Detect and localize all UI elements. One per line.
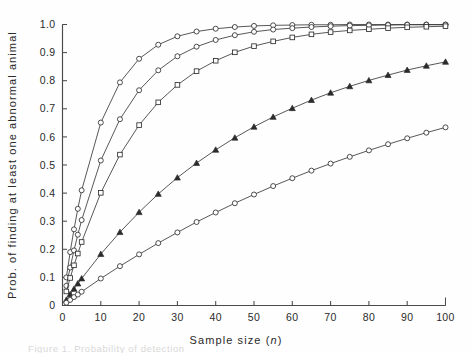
data-point-marker	[117, 117, 122, 122]
data-point-marker	[251, 124, 257, 129]
data-point-marker	[232, 135, 238, 140]
data-point-marker	[213, 26, 218, 31]
data-point-marker	[309, 32, 314, 37]
data-point-marker	[64, 289, 69, 294]
x-tick-label: 70	[324, 311, 336, 323]
data-point-marker	[213, 147, 219, 152]
series-line	[66, 25, 445, 278]
data-point-marker	[194, 44, 199, 49]
data-point-marker	[405, 25, 410, 30]
data-point-marker	[174, 175, 180, 180]
data-point-marker	[137, 123, 142, 128]
data-point-marker	[347, 154, 352, 159]
data-point-marker	[194, 220, 199, 225]
y-tick-label: 0.4	[40, 187, 56, 199]
data-point-marker	[194, 29, 199, 34]
data-point-marker	[213, 37, 218, 42]
data-point-marker	[289, 105, 295, 110]
data-point-marker	[328, 161, 333, 166]
data-point-marker	[137, 252, 142, 257]
series-line	[66, 26, 445, 291]
data-point-marker	[79, 218, 84, 223]
y-tick-label: 0.3	[40, 215, 56, 227]
data-point-marker	[290, 176, 295, 181]
series-line	[66, 127, 445, 302]
data-point-marker	[443, 59, 449, 64]
data-point-marker	[386, 26, 391, 31]
x-tick-label: 80	[363, 311, 375, 323]
data-point-marker	[156, 241, 161, 246]
y-tick-label: 1.0	[40, 18, 56, 30]
data-point-marker	[75, 206, 80, 211]
data-point-marker	[175, 83, 180, 88]
data-point-marker	[232, 25, 237, 30]
y-tick-label: 0.2	[40, 243, 56, 255]
x-tick-label: 50	[248, 311, 260, 323]
data-point-marker	[71, 286, 77, 291]
y-tick-label: 0.8	[40, 74, 56, 86]
y-tick-label: 0	[49, 299, 55, 311]
data-point-marker	[290, 26, 295, 31]
data-point-marker	[347, 23, 352, 28]
x-tick-label: 60	[286, 311, 298, 323]
data-point-marker	[233, 50, 238, 55]
data-point-marker	[443, 24, 448, 29]
data-point-marker	[367, 27, 372, 32]
data-point-marker	[386, 142, 391, 147]
data-point-marker	[309, 168, 314, 173]
x-tick-label: 10	[95, 311, 107, 323]
data-point-marker	[271, 39, 276, 44]
figure-container: 00.10.20.30.40.50.60.70.80.91.0010203040…	[0, 0, 471, 353]
data-point-marker	[99, 191, 104, 196]
chart-plot-area: 00.10.20.30.40.50.60.70.80.91.0010203040…	[0, 0, 471, 353]
data-point-marker	[98, 120, 103, 125]
data-point-marker	[79, 240, 84, 245]
data-point-marker	[194, 69, 199, 74]
data-point-marker	[252, 192, 257, 197]
series-line	[66, 25, 445, 286]
data-point-marker	[328, 24, 333, 29]
y-tick-label: 0.1	[40, 271, 56, 283]
x-tick-label: 100	[436, 311, 455, 323]
data-point-marker	[156, 42, 161, 47]
data-point-marker	[79, 188, 84, 193]
x-tick-label: 40	[209, 311, 221, 323]
data-point-marker	[194, 160, 200, 165]
data-point-marker	[271, 27, 276, 32]
data-point-marker	[68, 276, 73, 281]
data-point-marker	[71, 227, 76, 232]
data-point-marker	[75, 232, 80, 237]
data-point-marker	[232, 201, 237, 206]
y-axis-label: Prob. of finding at least one abnormal a…	[6, 31, 18, 299]
data-point-marker	[137, 88, 142, 93]
x-tick-label: 90	[401, 311, 413, 323]
data-point-marker	[76, 251, 81, 256]
data-point-marker	[213, 58, 218, 63]
x-tick-label: 20	[133, 311, 145, 323]
data-point-marker	[175, 34, 180, 39]
data-point-marker	[72, 263, 77, 268]
data-point-marker	[175, 54, 180, 59]
y-tick-label: 0.9	[40, 46, 56, 58]
data-point-marker	[117, 264, 122, 269]
figure-caption: Figure 1. Probability of detection	[28, 343, 185, 353]
data-point-marker	[118, 152, 123, 157]
data-point-marker	[156, 100, 161, 105]
data-point-marker	[98, 276, 103, 281]
y-tick-label: 0.5	[40, 159, 56, 171]
data-point-marker	[252, 23, 257, 28]
data-point-marker	[232, 33, 237, 38]
x-axis-label: Sample size (n)	[190, 334, 283, 346]
data-point-marker	[443, 125, 448, 130]
data-point-marker	[328, 30, 333, 35]
y-tick-label: 0.7	[40, 102, 56, 114]
data-point-marker	[308, 97, 314, 102]
data-point-marker	[117, 80, 122, 85]
data-point-marker	[156, 68, 161, 73]
data-point-marker	[252, 29, 257, 34]
data-point-marker	[424, 24, 429, 29]
data-point-marker	[290, 35, 295, 40]
data-point-marker	[271, 184, 276, 189]
data-point-marker	[309, 25, 314, 30]
data-point-marker	[175, 230, 180, 235]
